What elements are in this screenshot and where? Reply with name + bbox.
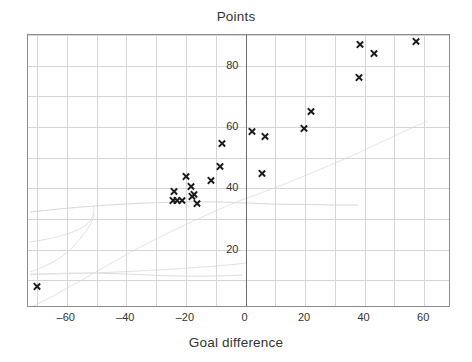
- x-tick-label: 40: [357, 311, 369, 323]
- gridline-vertical-minor: [394, 35, 395, 306]
- data-point-marker: [299, 124, 308, 133]
- scatter-chart-figure: Points Goal difference –60–40–2002040602…: [0, 0, 472, 362]
- x-tick-label: 0: [241, 311, 247, 323]
- y-tick-label: 80: [220, 59, 238, 71]
- gridline-vertical: [365, 35, 366, 306]
- gridline-horizontal-minor: [28, 219, 449, 220]
- gridline-vertical: [126, 35, 127, 306]
- data-point-marker: [170, 187, 179, 196]
- chart-title: Points: [0, 9, 472, 24]
- data-point-marker: [207, 176, 216, 185]
- data-point-marker: [260, 132, 269, 141]
- plot-area: [27, 34, 450, 307]
- data-point-marker: [354, 73, 363, 82]
- x-tick-label: 60: [417, 311, 429, 323]
- data-point-marker: [257, 169, 266, 178]
- x-tick-label: 20: [298, 311, 310, 323]
- gridline-horizontal-minor: [28, 35, 449, 36]
- data-point-marker: [192, 199, 201, 208]
- gridline-vertical-minor: [37, 35, 38, 306]
- data-point-marker: [369, 49, 378, 58]
- x-tick-label: –60: [57, 311, 75, 323]
- scan-artifact-strokes: [28, 35, 449, 306]
- gridline-horizontal: [28, 188, 449, 189]
- x-tick-label: –40: [116, 311, 134, 323]
- gridline-vertical: [186, 35, 187, 306]
- data-point-marker: [217, 139, 226, 148]
- gridline-horizontal-minor: [28, 96, 449, 97]
- gridline-vertical: [305, 35, 306, 306]
- scan-artifact-layer: [28, 35, 449, 306]
- plot-inner: [28, 35, 449, 306]
- x-axis-label: Goal difference: [0, 335, 472, 350]
- gridline-vertical-minor: [275, 35, 276, 306]
- data-point-marker: [32, 282, 41, 291]
- gridline-vertical: [67, 35, 68, 306]
- gridline-horizontal: [28, 127, 449, 128]
- zero-axis-line: [246, 35, 247, 306]
- gridline-horizontal: [28, 250, 449, 251]
- data-point-marker: [247, 127, 256, 136]
- gridline-horizontal-minor: [28, 158, 449, 159]
- y-tick-label: 60: [220, 120, 238, 132]
- gridline-vertical-minor: [97, 35, 98, 306]
- gridline-horizontal: [28, 66, 449, 67]
- gridline-vertical-minor: [156, 35, 157, 306]
- data-point-marker: [411, 37, 420, 46]
- y-tick-label: 20: [220, 243, 238, 255]
- gridline-vertical-minor: [335, 35, 336, 306]
- data-point-marker: [181, 172, 190, 181]
- data-point-marker: [189, 190, 198, 199]
- gridline-vertical: [424, 35, 425, 306]
- data-point-marker: [356, 40, 365, 49]
- data-point-marker: [177, 196, 186, 205]
- x-tick-label: –20: [176, 311, 194, 323]
- data-point-marker: [216, 162, 225, 171]
- data-point-marker: [307, 107, 316, 116]
- gridline-horizontal-minor: [28, 280, 449, 281]
- y-tick-label: 40: [220, 181, 238, 193]
